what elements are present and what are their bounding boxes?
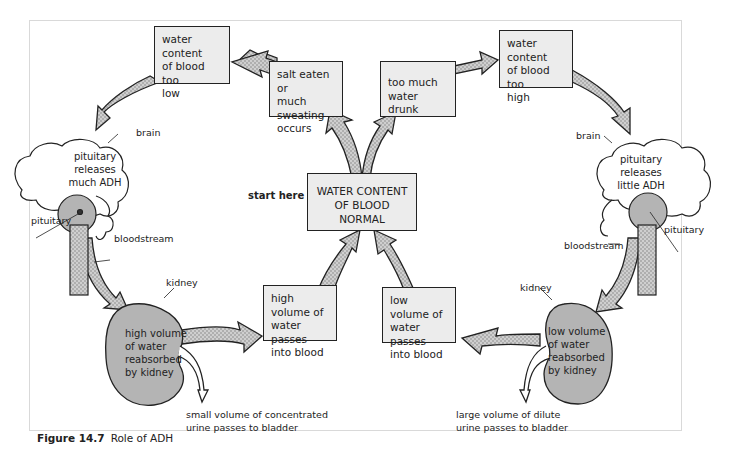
left-urine-label: small volume of concentrated urine passe… (186, 408, 328, 434)
right-brain-text: pituitary releases little ADH (601, 153, 681, 192)
right-bloodstream-label: bloodstream (564, 240, 624, 251)
left-pituitary-label: pituitary (31, 215, 71, 226)
figure-number: Figure 14.7 (37, 432, 105, 444)
figure-title: Role of ADH (111, 432, 174, 444)
arrow-high-to-brain (572, 70, 630, 134)
arrow-kidney-to-highbox (182, 322, 262, 352)
right-brain-label: brain (576, 130, 600, 141)
right-urine-label: large volume of dilute urine passes to b… (456, 408, 568, 434)
box-water-drunk: too much water drunk (380, 61, 456, 117)
arrow-low-to-brain (96, 76, 160, 130)
box-water-normal: WATER CONTENT OF BLOOD NORMAL (307, 173, 417, 231)
arrow-drunk-to-high (454, 52, 498, 74)
arrow-kidney-to-lowbox (462, 328, 540, 354)
diagram-graphics (0, 0, 732, 472)
arrow-highbox-to-center (318, 230, 360, 290)
right-kidney-label: kidney (520, 282, 552, 293)
left-brain-text: pituitary releases much ADH (57, 150, 133, 189)
right-kidney-text: low volume of water reabsorbed by kidney (548, 325, 605, 377)
arrow-lowbox-to-center (374, 230, 414, 290)
arrow-center-to-drunk (362, 112, 396, 178)
figure-caption: Figure 14.7Role of ADH (37, 432, 173, 444)
left-bloodstream-label: bloodstream (114, 233, 174, 244)
box-low-volume-passes: low volume of water passes into blood (382, 287, 456, 343)
left-brain-label: brain (136, 127, 160, 138)
left-kidney-text: high volume of water reabsorbed by kidne… (125, 327, 187, 379)
box-water-low: water content of blood too low (154, 26, 230, 84)
start-here-label: start here (248, 190, 304, 201)
right-pituitary-label: pituitary (664, 224, 704, 235)
box-salt-eaten: salt eaten or much sweating occurs (269, 61, 343, 117)
box-high-volume-passes: high volume of water passes into blood (263, 285, 337, 341)
left-kidney-label: kidney (166, 277, 198, 288)
box-water-high: water content of blood too high (499, 30, 573, 88)
